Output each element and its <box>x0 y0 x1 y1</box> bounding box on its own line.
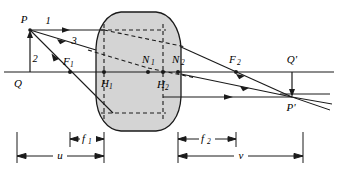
svg-text:2: 2 <box>165 83 169 92</box>
label-ray-3: 3 <box>70 35 76 46</box>
svg-text:N: N <box>141 53 150 65</box>
svg-text:1: 1 <box>88 137 92 146</box>
ray2-arrowhead-out <box>224 94 233 100</box>
ray1-arrowhead-in <box>62 27 70 33</box>
svg-text:1: 1 <box>151 58 155 67</box>
dim-v-arrow-right <box>294 153 303 158</box>
svg-text:1: 1 <box>70 60 74 69</box>
label-P: P <box>20 13 28 25</box>
ray3-extension <box>292 97 332 104</box>
marker-H2 <box>161 70 165 74</box>
image-arrow <box>289 72 295 97</box>
label-u: u <box>57 149 63 161</box>
dim-f2-arrow-left <box>178 137 186 142</box>
svg-text:F: F <box>62 55 70 67</box>
marker-P <box>28 28 32 32</box>
marker-N1 <box>146 70 150 74</box>
dim-u-arrow-left <box>17 153 26 158</box>
label-P-prime: P' <box>285 101 296 113</box>
marker-F2 <box>234 70 238 74</box>
dim-u-arrow-right <box>95 153 104 158</box>
ray3-emergent <box>181 74 292 97</box>
label-ray-2: 2 <box>32 53 38 64</box>
svg-text:F: F <box>228 53 236 65</box>
diagram-canvas: P Q 1 2 3 F 1 H 1 N 1 H 2 N 2 F 2 Q' <box>0 0 338 171</box>
label-F1: F 1 <box>62 55 74 69</box>
dim-v-arrow-left <box>178 153 187 158</box>
label-Q-prime: Q' <box>287 53 298 65</box>
ray1-extension <box>292 97 330 110</box>
dim-f2-arrow-right <box>228 137 236 142</box>
optics-ray-diagram: P Q 1 2 3 F 1 H 1 N 1 H 2 N 2 F 2 Q' <box>0 0 338 171</box>
dim-f1-arrow-right <box>96 137 104 142</box>
dim-f1-arrow-left <box>70 137 78 142</box>
label-Q: Q <box>14 77 22 89</box>
svg-text:2: 2 <box>237 58 241 67</box>
marker-N2 <box>176 70 180 74</box>
svg-text:N: N <box>171 53 180 65</box>
svg-text:1: 1 <box>109 82 113 91</box>
svg-text:2: 2 <box>181 58 185 67</box>
marker-H1 <box>102 70 106 74</box>
marker-F1 <box>68 70 72 74</box>
label-ray-1: 1 <box>45 15 50 26</box>
svg-text:2: 2 <box>207 137 211 146</box>
label-v: v <box>239 149 244 161</box>
object-arrow <box>27 30 33 72</box>
label-F2: F 2 <box>228 53 241 67</box>
